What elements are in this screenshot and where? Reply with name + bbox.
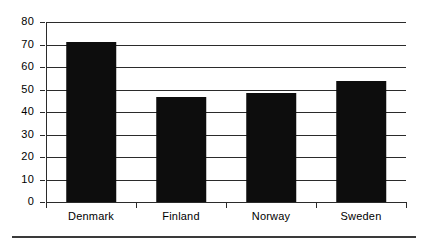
- y-axis-tick: [40, 45, 45, 46]
- y-axis-tick-label: 70: [0, 39, 34, 50]
- y-axis-tick-label: 20: [0, 151, 34, 162]
- bar[interactable]: [66, 42, 116, 202]
- y-axis-tick: [40, 135, 45, 136]
- bottom-horizontal-rule: [12, 236, 416, 238]
- x-axis-tick: [226, 202, 227, 208]
- y-axis-line: [46, 22, 47, 203]
- y-axis-tick: [40, 112, 45, 113]
- category-label: Norway: [226, 210, 316, 223]
- y-axis-tick-label: 60: [0, 61, 34, 72]
- bar[interactable]: [336, 81, 386, 203]
- category-label: Finland: [136, 210, 226, 223]
- bars-layer: [46, 22, 406, 202]
- y-axis-tick-label: 80: [0, 16, 34, 27]
- y-axis-tick: [40, 180, 45, 181]
- bar[interactable]: [246, 93, 296, 202]
- x-axis-tick: [136, 202, 137, 208]
- y-axis-tick-label: 50: [0, 84, 34, 95]
- category-label: Denmark: [46, 210, 136, 223]
- y-axis-tick: [40, 90, 45, 91]
- y-axis-tick: [40, 22, 45, 23]
- y-axis-tick: [40, 202, 45, 203]
- x-axis-tick: [46, 202, 47, 208]
- y-axis-tick: [40, 67, 45, 68]
- x-axis-tick: [406, 202, 407, 208]
- bar-slot: [316, 22, 406, 202]
- x-axis-tick: [316, 202, 317, 208]
- category-label: Sweden: [316, 210, 406, 223]
- y-axis-tick-label: 10: [0, 174, 34, 185]
- plot-area: [46, 22, 406, 202]
- y-axis-tick: [40, 157, 45, 158]
- bar-chart-figure: 80706050403020100 DenmarkFinlandNorwaySw…: [0, 0, 429, 249]
- y-axis-tick-label: 40: [0, 106, 34, 117]
- y-axis-tick-label: 30: [0, 129, 34, 140]
- bar-slot: [46, 22, 136, 202]
- bar-slot: [226, 22, 316, 202]
- y-axis-tick-label: 0: [0, 196, 34, 207]
- bar-slot: [136, 22, 226, 202]
- bar[interactable]: [156, 97, 206, 202]
